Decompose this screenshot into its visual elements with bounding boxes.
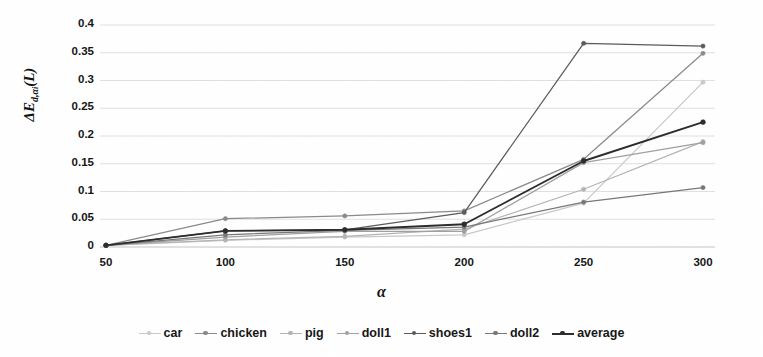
y-tick-label: 0.1 <box>48 184 94 196</box>
data-point-doll2 <box>582 200 586 204</box>
legend-marker-icon <box>337 329 359 338</box>
data-point-shoes1 <box>582 41 586 45</box>
data-point-average <box>104 243 109 248</box>
legend-item-car[interactable]: car <box>139 326 183 340</box>
legend-label: car <box>164 326 183 340</box>
series-line-doll2 <box>106 188 703 246</box>
data-point-average <box>223 229 228 234</box>
series-line-doll1 <box>106 143 703 246</box>
data-point-average <box>701 120 706 125</box>
legend-label: doll2 <box>510 326 539 340</box>
data-point-average <box>342 227 347 232</box>
x-tick-label: 150 <box>315 256 375 268</box>
chart-legend: carchickenpigdoll1shoes1doll2average <box>0 326 763 340</box>
y-tick-label: 0.15 <box>48 156 94 168</box>
legend-label: shoes1 <box>429 326 472 340</box>
series-line-chicken <box>106 53 703 245</box>
data-point-chicken <box>343 214 347 218</box>
legend-marker-icon <box>139 329 161 338</box>
legend-item-shoes1[interactable]: shoes1 <box>404 326 472 340</box>
legend-item-pig[interactable]: pig <box>280 326 324 340</box>
data-point-chicken <box>701 51 705 55</box>
data-point-doll1 <box>701 141 705 145</box>
legend-item-doll2[interactable]: doll2 <box>485 326 539 340</box>
x-tick-label: 50 <box>76 256 136 268</box>
data-point-average <box>581 159 586 164</box>
y-tick-label: 0.4 <box>48 17 94 29</box>
x-tick-label: 250 <box>554 256 614 268</box>
legend-item-average[interactable]: average <box>552 326 624 340</box>
data-point-pig <box>343 234 347 238</box>
series-line-average <box>106 122 703 245</box>
y-tick-label: 0.35 <box>48 45 94 57</box>
data-point-chicken <box>223 217 227 221</box>
y-tick-label: 0.2 <box>48 128 94 140</box>
x-tick-label: 100 <box>195 256 255 268</box>
x-tick-label: 200 <box>434 256 494 268</box>
data-point-average <box>462 222 467 227</box>
legend-label: doll1 <box>362 326 391 340</box>
y-tick-label: 0.25 <box>48 100 94 112</box>
data-point-car <box>701 80 705 84</box>
series-line-shoes1 <box>106 43 703 245</box>
data-point-shoes1 <box>462 210 466 214</box>
legend-marker-icon <box>485 329 507 338</box>
plot-area <box>0 0 763 357</box>
data-point-doll2 <box>701 186 705 190</box>
legend-marker-icon <box>552 329 574 338</box>
data-point-doll1 <box>462 229 466 233</box>
legend-marker-icon <box>404 329 426 338</box>
data-point-shoes1 <box>701 44 705 48</box>
chart-figure: ΔEd,αi(L) 00.050.10.150.20.250.30.350.4 … <box>0 0 763 357</box>
y-tick-label: 0 <box>48 239 94 251</box>
y-tick-label: 0.3 <box>48 73 94 85</box>
legend-label: average <box>577 326 624 340</box>
legend-label: chicken <box>220 326 267 340</box>
legend-item-chicken[interactable]: chicken <box>195 326 267 340</box>
legend-item-doll1[interactable]: doll1 <box>337 326 391 340</box>
legend-marker-icon <box>195 329 217 338</box>
x-axis-label: α <box>0 283 763 301</box>
legend-label: pig <box>305 326 324 340</box>
data-point-pig <box>582 187 586 191</box>
y-tick-label: 0.05 <box>48 211 94 223</box>
legend-marker-icon <box>280 329 302 338</box>
x-tick-label: 300 <box>673 256 733 268</box>
